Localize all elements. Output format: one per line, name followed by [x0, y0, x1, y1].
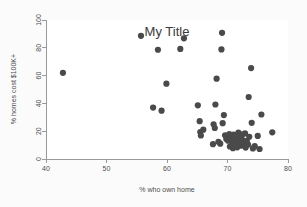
data-point — [246, 134, 252, 140]
y-tick-label: 60 — [35, 72, 42, 80]
data-point — [269, 129, 275, 135]
data-point — [150, 104, 156, 110]
data-point — [195, 102, 201, 108]
data-point — [177, 46, 183, 52]
data-point — [217, 141, 223, 147]
y-tick-label: 100 — [35, 14, 42, 26]
data-point — [163, 81, 169, 87]
chart-title: My Title — [145, 24, 190, 39]
data-point — [255, 133, 261, 139]
x-tick-label: 50 — [103, 165, 111, 172]
data-point — [248, 65, 254, 71]
data-point — [218, 46, 224, 52]
data-point — [158, 108, 164, 114]
data-point — [138, 33, 144, 39]
data-point — [212, 125, 218, 131]
data-point — [220, 120, 226, 126]
data-point — [60, 70, 66, 76]
x-tick-label: 80 — [284, 165, 292, 172]
data-point — [155, 47, 161, 53]
y-axis-label: % homes cost $100K+ — [10, 54, 17, 124]
x-axis-label: % who own home — [139, 186, 194, 193]
y-tick-label: 0 — [35, 157, 42, 161]
x-tick-label: 70 — [224, 165, 232, 172]
data-point — [249, 120, 255, 126]
data-point — [221, 112, 227, 118]
data-point — [246, 94, 252, 100]
y-tick-label: 40 — [35, 99, 42, 107]
data-point — [245, 141, 251, 147]
data-point — [210, 141, 216, 147]
data-point — [198, 132, 204, 138]
data-point — [197, 118, 203, 124]
data-point — [214, 76, 220, 82]
chart-figure: 020406080100 4050607080 My Title % who o… — [0, 0, 307, 207]
y-tick-label: 20 — [35, 127, 42, 135]
scatter-plot: 020406080100 4050607080 My Title % who o… — [0, 0, 307, 207]
x-tick-label: 40 — [42, 165, 50, 172]
data-point — [212, 101, 218, 107]
data-point — [258, 111, 264, 117]
data-point — [219, 30, 225, 36]
data-point — [256, 146, 262, 152]
x-tick-label: 60 — [163, 165, 171, 172]
data-point — [200, 127, 206, 133]
y-tick-label: 80 — [35, 44, 42, 52]
